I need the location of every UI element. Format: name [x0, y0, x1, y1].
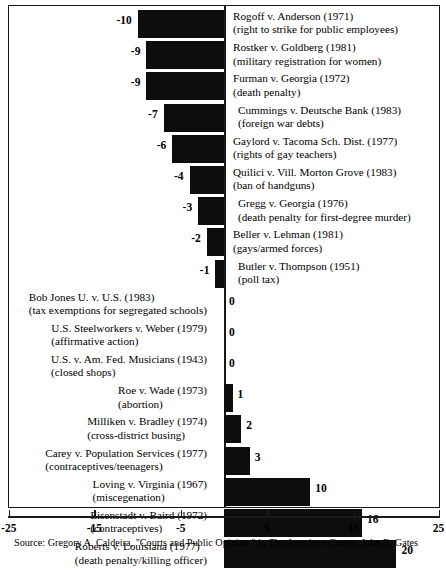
case-subtitle: (rights of gay teachers): [233, 148, 397, 161]
bar-row: -1Butler v. Thompson (1951)(poll tax): [9, 259, 439, 290]
case-label: Butler v. Thompson (1951)(poll tax): [233, 260, 360, 287]
source-prefix: Source: Gregory A. Caldeira, "Courts and…: [14, 537, 268, 548]
bar-value-label: 16: [367, 513, 379, 526]
bar-rows-container: -10Rogoff v. Anderson (1971)(right to st…: [9, 9, 439, 570]
bar-value-label: 0: [229, 357, 235, 370]
x-axis-tick: [354, 510, 356, 517]
x-axis-tick: [9, 510, 11, 517]
case-subtitle: (abortion): [118, 398, 207, 411]
x-axis-tick-label: 15: [348, 521, 360, 535]
bar: [172, 135, 224, 163]
x-axis-tick: [439, 510, 441, 517]
source-suffix: , John B. Gates: [356, 537, 418, 548]
case-subtitle: (death penalty/killing officer): [75, 554, 207, 567]
bar-value-label: 2: [246, 419, 252, 432]
bar: [224, 478, 310, 506]
x-axis-tick-label: -25: [1, 521, 16, 535]
x-axis-tick-label: 25: [433, 521, 445, 535]
case-label: Carey v. Population Services (1977)(cont…: [40, 447, 207, 474]
bar-row: -7Cummings v. Deutsche Bank (1983)(forei…: [9, 103, 439, 134]
bar-row: 3Carey v. Population Services (1977)(con…: [9, 446, 439, 477]
case-label: Loving v. Virginia (1967)(miscegenation): [93, 478, 207, 505]
case-subtitle: (gays/armed forces): [233, 242, 343, 255]
bar-value-label: 0: [229, 295, 235, 308]
case-title: Milliken v. Bradley (1974): [87, 415, 207, 428]
case-label: Rostker v. Goldberg (1981)(military regi…: [233, 41, 381, 68]
bar-value-label: -6: [157, 139, 167, 152]
bar-row: -3Gregg v. Georgia (1976)(death penalty …: [9, 196, 439, 227]
bar-value-label: 3: [255, 451, 261, 464]
case-title: Rogoff v. Anderson (1971): [233, 10, 398, 23]
bar-row: -6Gaylord v. Tacoma Sch. Dist. (1977)(ri…: [9, 134, 439, 165]
case-title: U.S. v. Am. Fed. Musicians (1943): [51, 353, 207, 366]
case-subtitle: (miscegenation): [93, 491, 207, 504]
case-subtitle: (closed shops): [51, 366, 207, 379]
bar: [224, 415, 241, 443]
case-title: Loving v. Virginia (1967): [93, 478, 207, 491]
case-label: U.S. v. Am. Fed. Musicians (1943)(closed…: [51, 353, 207, 380]
case-subtitle: (poll tax): [238, 273, 360, 286]
bar: [215, 260, 224, 288]
bar-value-label: -2: [191, 232, 201, 245]
case-title: Quilici v. Vill. Morton Grove (1983): [233, 166, 396, 179]
case-subtitle: (contraceptives/teenagers): [45, 460, 207, 473]
x-axis-tick-label: -5: [176, 521, 186, 535]
case-label: Rogoff v. Anderson (1971)(right to strik…: [233, 10, 398, 37]
bar-value-label: 1: [238, 388, 244, 401]
case-title: Cummings v. Deutsche Bank (1983): [238, 104, 401, 117]
bar-row: 2Milliken v. Bradley (1974)(cross-distri…: [9, 414, 439, 445]
bar: [146, 72, 224, 100]
bar: [207, 228, 224, 256]
bar-row: 0Bob Jones U. v. U.S. (1983)(tax exempti…: [9, 290, 439, 321]
bar-value-label: 10: [315, 482, 327, 495]
x-axis: -25-15-551525: [8, 508, 440, 509]
x-axis-tick: [267, 510, 269, 517]
bar-row: -2Beller v. Lehman (1981)(gays/armed for…: [9, 227, 439, 258]
bar-value-label: -9: [131, 45, 141, 58]
case-label: Cummings v. Deutsche Bank (1983)(foreign…: [233, 104, 401, 131]
bar-row: 0U.S. Steelworkers v. Weber (1979)(affir…: [9, 321, 439, 352]
x-axis-tick-label: -15: [87, 521, 102, 535]
bar-value-label: -9: [131, 76, 141, 89]
case-subtitle: (death penalty for first-degree murder): [238, 211, 411, 224]
case-title: Roe v. Wade (1973): [118, 384, 207, 397]
case-title: U.S. Steelworkers v. Weber (1979): [51, 322, 207, 335]
case-title: Carey v. Population Services (1977): [45, 447, 207, 460]
bar-value-label: -10: [116, 14, 131, 27]
case-label: Bob Jones U. v. U.S. (1983)(tax exemptio…: [29, 291, 207, 318]
case-title: Furman v. Georgia (1972): [233, 72, 350, 85]
case-title: Bob Jones U. v. U.S. (1983): [29, 291, 207, 304]
bar: [138, 10, 224, 38]
bar: [146, 41, 224, 69]
case-label: Milliken v. Bradley (1974)(cross-distric…: [87, 415, 207, 442]
case-label: Eisenstadt v. Baird (1972)(contraceptive…: [90, 509, 207, 536]
bar-row: -9Furman v. Georgia (1972)(death penalty…: [9, 71, 439, 102]
bar: [224, 447, 250, 475]
case-subtitle: (military registration for women): [233, 55, 381, 68]
bar-value-label: -1: [200, 264, 210, 277]
source-italic-title: The American Courts: [268, 537, 356, 548]
bar-row: -9Rostker v. Goldberg (1981)(military re…: [9, 40, 439, 71]
case-label: U.S. Steelworkers v. Weber (1979)(affirm…: [46, 322, 207, 349]
case-label: Gregg v. Georgia (1976)(death penalty fo…: [233, 197, 411, 224]
case-title: Butler v. Thompson (1951): [238, 260, 360, 273]
bar: [164, 104, 224, 132]
case-title: Rostker v. Goldberg (1981): [233, 41, 381, 54]
bar: [190, 166, 224, 194]
x-axis-tick: [94, 510, 96, 517]
bar: [224, 509, 362, 537]
bar-value-label: -3: [183, 201, 193, 214]
case-label: Furman v. Georgia (1972)(death penalty): [233, 72, 350, 99]
chart-plot-area: -10Rogoff v. Anderson (1971)(right to st…: [8, 5, 440, 508]
source-citation: Source: Gregory A. Caldeira, "Courts and…: [14, 537, 444, 549]
case-label: Gaylord v. Tacoma Sch. Dist. (1977)(righ…: [233, 135, 397, 162]
x-axis-tick: [181, 510, 183, 517]
bar-row: 0U.S. v. Am. Fed. Musicians (1943)(close…: [9, 352, 439, 383]
case-subtitle: (death penalty): [233, 86, 350, 99]
case-label: Beller v. Lehman (1981)(gays/armed force…: [233, 228, 343, 255]
case-title: Gaylord v. Tacoma Sch. Dist. (1977): [233, 135, 397, 148]
bar-row: 1Roe v. Wade (1973)(abortion): [9, 383, 439, 414]
case-subtitle: (cross-district busing): [87, 429, 207, 442]
bar-row: -10Rogoff v. Anderson (1971)(right to st…: [9, 9, 439, 40]
case-subtitle: (contraceptives): [90, 522, 207, 535]
